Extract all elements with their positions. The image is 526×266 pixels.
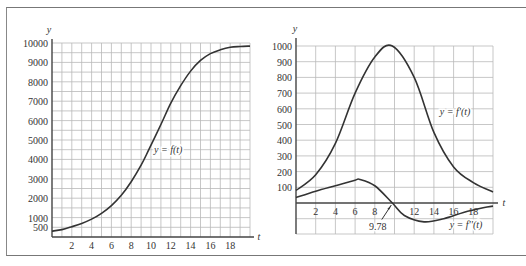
x-tick-label: 12 bbox=[409, 206, 419, 217]
x-tick-label: 16 bbox=[205, 240, 215, 251]
y-tick-label: 600 bbox=[277, 104, 292, 115]
x-tick-label: 18 bbox=[225, 240, 235, 251]
x-tick-label: 6 bbox=[353, 206, 358, 217]
x-tick-label: 8 bbox=[129, 240, 134, 251]
y-tick-label: 500 bbox=[277, 120, 292, 131]
x-tick-label: 2 bbox=[313, 206, 318, 217]
x-tick-label: 6 bbox=[109, 240, 114, 251]
left-chart-fx: yt50010002000300040005000600070008000900… bbox=[23, 24, 261, 251]
x-tick-label: 4 bbox=[333, 206, 338, 217]
y-tick-label: 700 bbox=[277, 88, 292, 99]
y-tick-label: 10000 bbox=[23, 38, 48, 49]
x-tick-label: 14 bbox=[429, 206, 439, 217]
y-tick-label: 900 bbox=[277, 57, 292, 68]
y-tick-label: 100 bbox=[277, 182, 292, 193]
x-tick-label: 8 bbox=[372, 206, 377, 217]
y-tick-label: 8000 bbox=[28, 77, 48, 88]
y-tick-label: 4000 bbox=[28, 154, 48, 165]
y-tick-label: 500 bbox=[33, 222, 48, 233]
y-tick-label: 2000 bbox=[28, 193, 48, 204]
x-axis-label: t bbox=[503, 197, 506, 208]
x-tick-label: 4 bbox=[89, 240, 94, 251]
curve-label-f-double-prime: y = f''(t) bbox=[449, 219, 483, 231]
y-tick-label: 9000 bbox=[28, 57, 48, 68]
y-tick-label: 1000 bbox=[28, 213, 48, 224]
inflection-label: 9.78 bbox=[369, 221, 387, 232]
right-chart-derivatives: yt10020030040050060070080090010002468121… bbox=[272, 23, 506, 234]
curve-label-f-prime: y = f'(t) bbox=[439, 106, 471, 118]
y-axis-label: y bbox=[292, 23, 298, 34]
curve-label-f: y = f(t) bbox=[153, 144, 183, 156]
x-tick-label: 2 bbox=[69, 240, 74, 251]
x-tick-label: 10 bbox=[146, 240, 156, 251]
y-tick-label: 200 bbox=[277, 167, 292, 178]
arrowhead-icon bbox=[387, 205, 391, 210]
x-axis-label: t bbox=[258, 231, 261, 242]
y-tick-label: 800 bbox=[277, 72, 292, 83]
y-tick-label: 1000 bbox=[272, 41, 292, 52]
y-tick-label: 7000 bbox=[28, 96, 48, 107]
y-axis-label: y bbox=[46, 24, 52, 35]
y-tick-label: 3000 bbox=[28, 174, 48, 185]
y-tick-label: 5000 bbox=[28, 135, 48, 146]
y-tick-label: 6000 bbox=[28, 116, 48, 127]
x-tick-label: 12 bbox=[166, 240, 176, 251]
x-tick-label: 14 bbox=[186, 240, 196, 251]
y-tick-label: 300 bbox=[277, 151, 292, 162]
y-tick-label: 400 bbox=[277, 135, 292, 146]
